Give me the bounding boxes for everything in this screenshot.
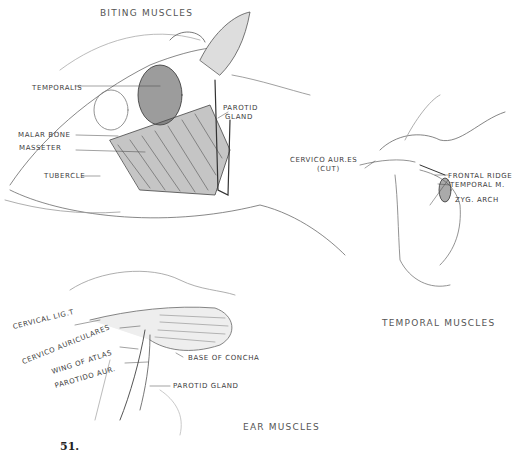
label-parotid: PAROTID (223, 104, 258, 112)
figure-number: 51. (60, 440, 79, 453)
label-cut: (CUT) (317, 165, 340, 173)
label-temporalis: TEMPORALIS (32, 84, 82, 92)
label-cervico-aur: CERVICO AUR.ES (290, 156, 357, 164)
label-temporal-m: TEMPORAL M. (450, 181, 505, 189)
label-parotid-gland: PAROTID GLAND (173, 382, 239, 390)
label-malar-bone: MALAR BONE (18, 131, 71, 139)
temporal-muscles-title: TEMPORAL MUSCLES (382, 318, 495, 328)
label-base-of-concha: BASE OF CONCHA (188, 354, 259, 362)
ear-muscles-title: EAR MUSCLES (243, 422, 320, 432)
temporal-muscles-drawing (360, 95, 505, 286)
label-gland: GLAND (225, 113, 253, 121)
biting-muscles-title: BITING MUSCLES (100, 8, 193, 18)
label-frontal-ridge: FRONTAL RIDGE (448, 172, 512, 180)
label-masseter: MASSETER (19, 144, 62, 152)
anatomy-plate: BITING MUSCLES TEMPORALIS MALAR BONE MAS… (0, 0, 513, 458)
label-zyg-arch: ZYG. ARCH (455, 196, 499, 204)
sketch-drawings (0, 0, 513, 458)
label-tubercle: TUBERCLE (44, 172, 85, 180)
